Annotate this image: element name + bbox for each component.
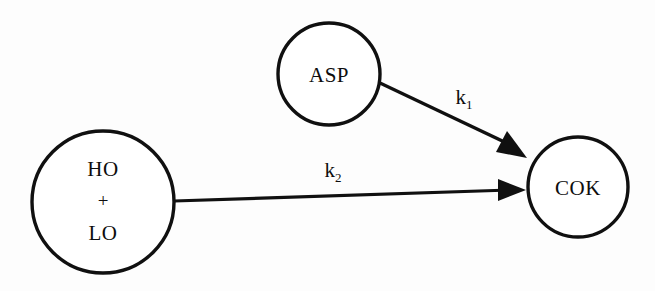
node-asp-label: ASP <box>309 63 349 87</box>
scheme-svg-canvas: ASP HO + LO COK k1 k2 <box>0 0 655 291</box>
edge-feed-to-cok <box>174 179 526 201</box>
node-cok[interactable]: COK <box>528 137 628 237</box>
edge-asp-to-cok <box>380 83 527 158</box>
svg-text:k1: k1 <box>456 85 473 112</box>
edge-asp-to-cok-line <box>380 83 515 147</box>
node-feed-label-ho: HO <box>87 157 118 181</box>
reaction-scheme-diagram: ASP HO + LO COK k1 k2 <box>0 0 655 291</box>
rate-label-k2-subscript: 2 <box>335 170 342 185</box>
edge-asp-to-cok-arrowhead <box>496 131 527 158</box>
node-feed-label-lo: LO <box>89 221 118 245</box>
node-asp[interactable]: ASP <box>278 23 380 125</box>
rate-label-k1-subscript: 1 <box>466 97 473 112</box>
edge-feed-to-cok-line <box>174 190 510 201</box>
svg-text:k2: k2 <box>325 158 342 185</box>
edge-feed-to-cok-arrowhead <box>498 179 526 201</box>
rate-label-k2-base: k <box>325 158 336 182</box>
node-feed-label-plus: + <box>98 190 109 211</box>
rate-label-k1: k1 <box>456 85 473 112</box>
node-feed[interactable]: HO + LO <box>32 131 174 273</box>
node-cok-label: COK <box>555 176 601 200</box>
rate-label-k2: k2 <box>325 158 342 185</box>
rate-label-k1-base: k <box>456 85 467 109</box>
